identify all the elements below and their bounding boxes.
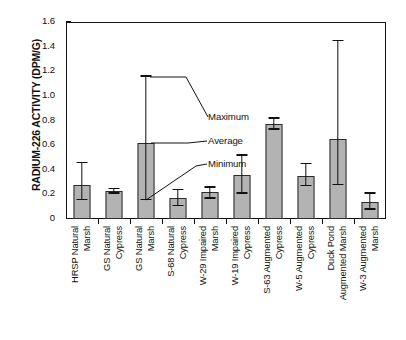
error-bar-cap-max [269,117,280,118]
y-axis-tick-label: 1.4 [42,40,55,51]
error-bar-line [145,76,146,199]
error-bar-cap-min [205,197,216,198]
bar-group[interactable] [98,22,130,219]
x-axis-category-label: W-19 Impaired Cypress [229,226,255,338]
error-bar-line [81,162,82,199]
bar-group[interactable] [322,22,354,219]
x-axis-category-label: HRSP Natural Marsh [69,226,95,338]
y-axis-tick-label: 0.2 [42,187,55,198]
y-axis-tick-label: 1.6 [42,15,55,26]
error-bar-cap-max [333,40,344,41]
y-axis-tick-label: 0.6 [42,138,55,149]
annotation-average: Average [208,135,243,146]
x-axis-category-label: S-68 Natural Cypress [165,226,191,338]
x-axis-tick-mark [258,219,259,224]
error-bar-line [337,40,338,184]
bar[interactable] [106,191,123,219]
x-axis-category-label: W-29 Impaired Marsh [197,226,223,338]
error-bar-cap-min [77,199,88,200]
bar-group[interactable] [258,22,290,219]
error-bar-cap-max [173,189,184,190]
error-bar-line [177,189,178,205]
bar-group[interactable] [66,22,98,219]
y-axis-tick-label: 0.4 [42,163,55,174]
x-axis-tick-mark [130,219,131,224]
bar-group[interactable] [290,22,322,219]
x-axis-labels: HRSP Natural MarshGS Natural CypressGS N… [66,226,386,338]
x-axis-category-label: W-5 Augmented Cypress [293,226,319,338]
y-axis-tick-label: 1.0 [42,89,55,100]
x-axis-category-label: GS Natural Marsh [133,226,159,338]
x-axis-category-label: W-3 Augmented Marsh [357,226,383,338]
error-bar-cap-max [205,186,216,187]
bar-group[interactable] [354,22,386,219]
y-axis-tick-label: 0 [50,212,55,223]
error-bar-cap-min [333,184,344,185]
error-bar-cap-max [77,162,88,163]
bar-group[interactable] [130,22,162,219]
error-bar-cap-min [109,192,120,193]
x-axis-tick-mark [290,219,291,224]
error-bar-cap-min [301,185,312,186]
error-bar-cap-min [365,208,376,209]
x-axis-tick-mark [322,219,323,224]
x-axis-tick-mark [194,219,195,224]
error-bar-line [305,164,306,186]
bar[interactable] [266,124,283,219]
error-bar-cap-min [269,128,280,129]
x-axis-tick-mark [98,219,99,224]
annotation-minimum: Minimum [208,158,246,169]
x-axis-category-label: GS Natural Cypress [101,226,127,338]
error-bar-cap-min [141,199,152,200]
x-axis-tick-mark [354,219,355,224]
error-bar-cap-max [109,188,120,189]
error-bar-cap-max [141,75,152,76]
radium-226-activity-chart: RADIUM-226 ACTIVITY (DPM/G) 00.20.40.60.… [0,0,406,340]
error-bar-cap-max [365,192,376,193]
annotation-maximum: Maximum [208,111,249,122]
y-axis-tick-label: 0.8 [42,114,55,125]
bar-group[interactable] [162,22,194,219]
y-axis-tick-label: 1.2 [42,64,55,75]
error-bar-cap-min [237,192,248,193]
error-bar-cap-max [237,154,248,155]
error-bar-cap-max [301,163,312,164]
x-axis-category-label: S-63 Augmented Cypress [261,226,287,338]
x-axis-tick-mark [162,219,163,224]
x-axis-category-label: Duck Pond Augmented Marsh [325,226,351,338]
x-axis-tick-mark [226,219,227,224]
error-bar-cap-min [173,205,184,206]
error-bar-line [369,193,370,209]
